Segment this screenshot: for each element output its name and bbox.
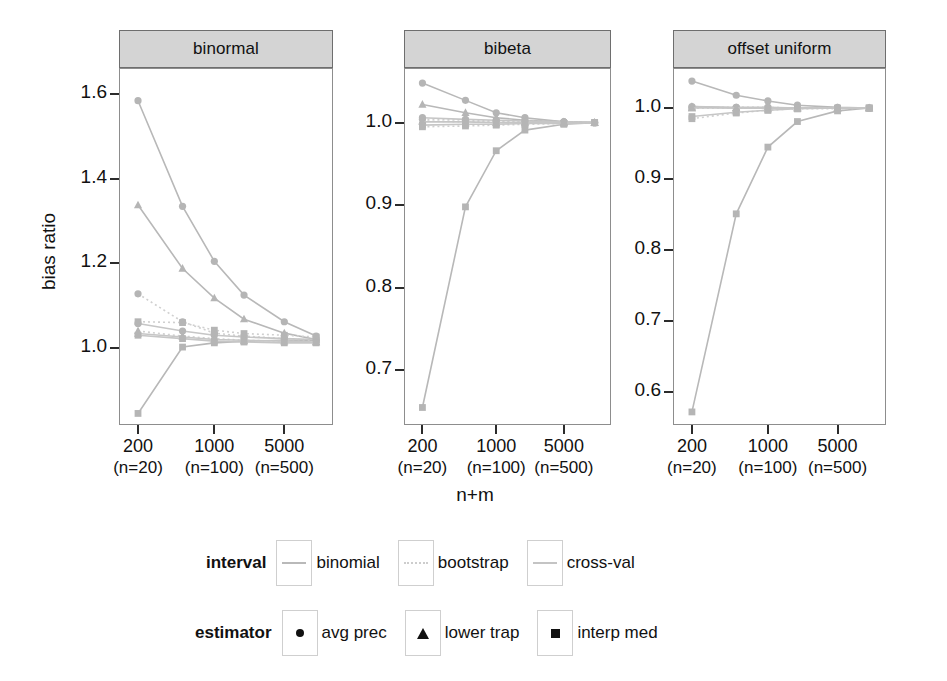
series-point <box>419 79 426 86</box>
series-point <box>764 144 771 151</box>
x-tick-mark <box>421 425 423 434</box>
x-tick-label: 5000(n=500) <box>790 436 886 478</box>
series-point <box>462 97 469 104</box>
panel-plot-offset-uniform <box>673 68 886 425</box>
series-point <box>794 118 801 125</box>
y-tick-label: 1.0 <box>606 95 661 117</box>
series-point <box>241 339 248 346</box>
series-point <box>733 210 740 217</box>
x-tick-mark <box>213 425 215 434</box>
series-point <box>493 147 500 154</box>
x-tick-label-value: 5000 <box>817 436 857 456</box>
series-point <box>493 121 500 128</box>
series-point <box>134 201 142 209</box>
legend-label-binomial: binomial <box>316 553 379 573</box>
x-axis-title: n+m <box>420 484 530 506</box>
series-point <box>866 105 873 112</box>
line-swatch-icon <box>282 562 306 564</box>
panel-strip-offset-uniform: offset uniform <box>673 30 886 68</box>
series-point <box>462 203 469 210</box>
x-tick-label-value: 200 <box>677 436 707 456</box>
triangle-symbol-icon <box>417 628 429 639</box>
series-line <box>422 83 594 123</box>
figure-canvas: bias ratio binormal1.01.21.41.6200(n=20)… <box>0 0 947 681</box>
legend-key-cross-val[interactable] <box>527 540 563 586</box>
series-point <box>591 119 598 126</box>
x-tick-mark <box>837 425 839 434</box>
y-tick-label: 1.6 <box>52 81 107 103</box>
y-tick-label: 1.0 <box>337 110 392 132</box>
x-tick-label-n: (n=500) <box>236 458 332 478</box>
series-point <box>419 404 426 411</box>
panel-strip-binormal: binormal <box>119 30 333 68</box>
x-tick-label-value: 1000 <box>748 436 788 456</box>
series-line <box>422 122 594 123</box>
line-swatch-icon <box>404 562 428 564</box>
circle-symbol-icon <box>296 629 304 637</box>
series-point <box>281 339 288 346</box>
y-tick-mark <box>110 262 119 264</box>
y-tick-label: 1.0 <box>52 335 107 357</box>
y-tick-mark <box>395 369 404 371</box>
series-line <box>422 123 594 408</box>
y-tick-mark <box>110 178 119 180</box>
x-tick-label: 5000(n=500) <box>516 436 612 478</box>
legend-key-avg-prec[interactable] <box>282 610 318 656</box>
y-tick-label: 1.2 <box>52 250 107 272</box>
x-tick-label: 5000(n=500) <box>236 436 332 478</box>
series-line <box>138 340 316 413</box>
legend-label-bootstrap: bootstrap <box>438 553 509 573</box>
legend-key-bootstrap[interactable] <box>398 540 434 586</box>
series-point <box>313 339 320 346</box>
series-line <box>692 108 869 412</box>
legend-estimator: estimator avg preclower trapinterp med <box>195 610 676 656</box>
y-tick-label: 0.9 <box>337 192 392 214</box>
y-tick-mark <box>110 347 119 349</box>
x-tick-label-n: (n=500) <box>516 458 612 478</box>
series-point <box>764 107 771 114</box>
series-point <box>134 320 141 327</box>
x-tick-label-value: 1000 <box>194 436 234 456</box>
series-point <box>240 315 248 323</box>
y-tick-label: 0.8 <box>337 275 392 297</box>
series-point <box>179 335 186 342</box>
legend-key-interp-med[interactable] <box>537 610 573 656</box>
panel-plot-binormal <box>119 68 333 425</box>
y-tick-mark <box>395 204 404 206</box>
x-tick-mark <box>283 425 285 434</box>
series-point <box>764 97 771 104</box>
legend-interval-title: interval <box>206 553 266 573</box>
series-point <box>689 409 696 416</box>
legend-label-avg-prec: avg prec <box>322 623 387 643</box>
series-point <box>418 100 426 108</box>
series-point <box>419 122 426 129</box>
legend-label-interp-med: interp med <box>577 623 657 643</box>
panel-series-layer <box>405 69 610 424</box>
series-point <box>135 332 142 339</box>
series-point <box>179 344 186 351</box>
y-tick-label: 0.7 <box>606 308 661 330</box>
panel-plot-bibeta <box>404 68 611 425</box>
y-tick-label: 0.8 <box>606 237 661 259</box>
x-tick-label-value: 200 <box>123 436 153 456</box>
y-tick-mark <box>664 391 673 393</box>
x-tick-mark <box>137 425 139 434</box>
panel-series-layer <box>674 69 885 424</box>
x-tick-label-value: 200 <box>407 436 437 456</box>
series-point <box>688 77 695 84</box>
x-tick-mark <box>691 425 693 434</box>
legend-label-cross-val: cross-val <box>567 553 635 573</box>
series-point <box>134 97 141 104</box>
y-tick-mark <box>110 93 119 95</box>
x-tick-mark <box>767 425 769 434</box>
y-tick-label: 1.4 <box>52 166 107 188</box>
series-point <box>211 338 218 345</box>
legend-label-lower-trap: lower trap <box>445 623 520 643</box>
series-point <box>240 292 247 299</box>
series-line <box>138 205 316 339</box>
series-line <box>138 101 316 336</box>
series-point <box>794 105 801 112</box>
series-point <box>522 120 529 127</box>
legend-key-lower-trap[interactable] <box>405 610 441 656</box>
legend-key-binomial[interactable] <box>276 540 312 586</box>
